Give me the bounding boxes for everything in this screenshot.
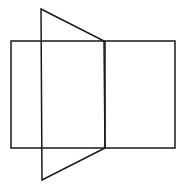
diagram-canvas — [0, 0, 177, 185]
trapezoid-shape — [41, 9, 105, 180]
outer-rectangle — [11, 41, 175, 148]
diagram-svg — [0, 0, 177, 185]
